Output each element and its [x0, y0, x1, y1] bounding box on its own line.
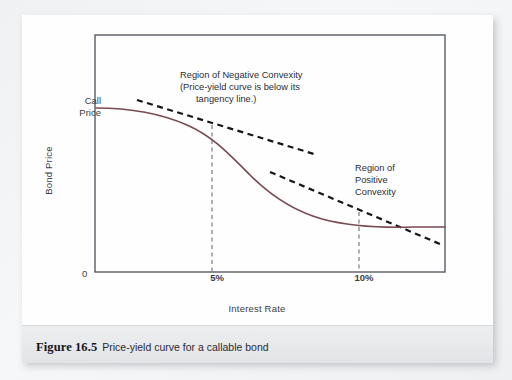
- figure-caption-text: Price-yield curve for a callable bond: [102, 341, 268, 353]
- figure-caption-label: Figure 16.5: [36, 340, 97, 354]
- chart-canvas: Bond Price CallPrice Interest Rate 0 5% …: [22, 15, 493, 325]
- figure-caption-bar: Figure 16.5Price-yield curve for a calla…: [22, 325, 493, 363]
- annotation-pos-line-3: Convexity: [355, 187, 450, 199]
- y-axis-call-price-label: CallPrice: [59, 95, 101, 118]
- annotation-region-positive-convexity: Region of Positive Convexity: [355, 163, 450, 198]
- call-price-line-1: CallPrice: [79, 95, 101, 118]
- annotation-pos-line-1: Region of: [355, 163, 450, 175]
- x-tick-10-percent: 10%: [343, 272, 385, 283]
- annotation-neg-line-3: tangency line.): [180, 94, 370, 106]
- figure-caption: Figure 16.5Price-yield curve for a calla…: [36, 337, 269, 355]
- figure-card: Bond Price CallPrice Interest Rate 0 5% …: [22, 15, 493, 362]
- annotation-pos-line-2: Positive: [355, 175, 450, 187]
- x-tick-0: 0: [82, 268, 87, 279]
- y-axis-title: Bond Price: [43, 131, 54, 211]
- annotation-region-negative-convexity: Region of Negative Convexity (Price-yiel…: [180, 70, 370, 105]
- annotation-neg-line-1: Region of Negative Convexity: [180, 70, 370, 82]
- figure-plot-area: Bond Price CallPrice Interest Rate 0 5% …: [22, 15, 493, 325]
- x-axis-title: Interest Rate: [202, 303, 312, 314]
- tangency-line-at-5-percent: [137, 100, 314, 154]
- annotation-neg-line-2: (Price-yield curve is below its: [180, 82, 370, 94]
- x-tick-5-percent: 5%: [199, 272, 235, 283]
